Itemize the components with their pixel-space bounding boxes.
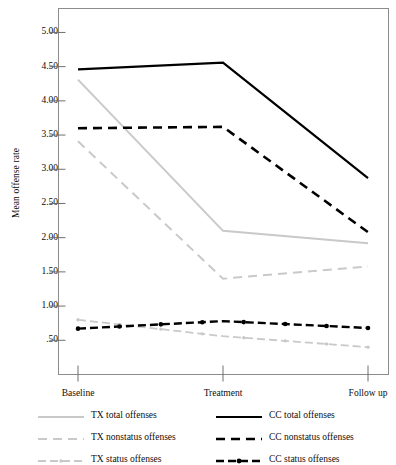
x-axis-tick-label: Baseline: [62, 389, 95, 399]
legend-label: CC status offenses: [269, 454, 340, 464]
legend-label: CC total offenses: [269, 410, 335, 420]
chart-figure: Mean offense rate .501.001.502.002.503.0…: [0, 0, 396, 465]
legend-label: CC nonstatus offenses: [269, 432, 354, 442]
legend-swatch: [38, 453, 84, 465]
legend-swatch: [216, 453, 262, 465]
x-axis-tick-label: Follow up: [349, 389, 388, 399]
chart-legend: TX total offensesTX nonstatus offensesTX…: [0, 398, 396, 465]
legend-label: TX status offenses: [91, 454, 162, 464]
x-axis-tick-labels: BaselineTreatmentFollow up: [0, 0, 396, 400]
legend-item[interactable]: TX status offenses: [38, 450, 162, 465]
legend-label: TX nonstatus offenses: [91, 432, 176, 442]
legend-label: TX total offenses: [91, 410, 157, 420]
legend-swatch: [38, 431, 84, 443]
legend-swatch: [216, 431, 262, 443]
legend-item[interactable]: CC status offenses: [216, 450, 340, 465]
legend-item[interactable]: TX nonstatus offenses: [38, 428, 176, 446]
legend-item[interactable]: TX total offenses: [38, 406, 157, 424]
legend-swatch: [216, 409, 262, 421]
legend-swatch: [38, 409, 84, 421]
x-axis-tick-label: Treatment: [204, 389, 243, 399]
legend-item[interactable]: CC total offenses: [216, 406, 335, 424]
legend-item[interactable]: CC nonstatus offenses: [216, 428, 354, 446]
